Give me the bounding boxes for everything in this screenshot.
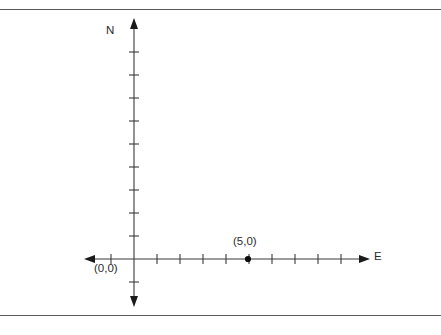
origin-label: (0,0) <box>94 263 118 275</box>
north-axis <box>130 18 138 307</box>
north-axis-label: N <box>106 25 114 37</box>
north-arrowhead-down <box>130 296 138 307</box>
east-axis <box>84 255 370 263</box>
axes-graphic <box>0 0 441 335</box>
point-label-5-0: (5,0) <box>233 236 257 248</box>
east-axis-label: E <box>374 251 382 263</box>
east-arrowhead-right <box>359 255 370 263</box>
north-arrowhead-up <box>130 18 138 29</box>
diagram-canvas: N E (0,0) (5,0) <box>0 0 441 335</box>
plot-point-0 <box>245 256 251 262</box>
axis-tick-marks <box>111 52 341 282</box>
plotted-points <box>245 256 251 262</box>
